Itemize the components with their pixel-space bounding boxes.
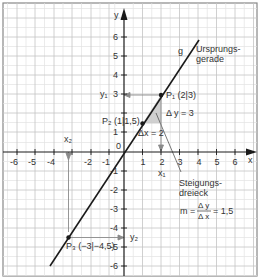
y-tick-label: 4 [113,70,118,80]
point-p2 [140,121,144,125]
slope-triangle-title-2: dreieck [179,188,209,198]
point-p1 [159,93,163,97]
slope-formula-denominator: Δ x [198,212,209,221]
x-tick-label: 6 [232,157,237,167]
line-caption-2: gerade [196,54,224,64]
x-tick-label: -1 [102,157,110,167]
point-p1-label: P₁ (2|3) [166,90,196,100]
coordinate-diagram: -6 -5 -4 -2 -1 1 2 3 4 5 6 6 5 4 3 1 -1 … [0,0,260,280]
x-tick-label: -5 [28,157,36,167]
x-axis-label: x [248,155,253,165]
x-tick-label: 1 [140,157,145,167]
point-p2-label: P₂ (1|1,5) [102,116,140,126]
y-tick-label: -6 [110,261,118,271]
slope-formula-numerator: Δ y [198,201,209,210]
x-tick-label: -4 [47,157,55,167]
x-tick-label: 2 [159,157,164,167]
point-p3 [66,235,70,239]
y-tick-label: 5 [113,51,118,61]
y-tick-label: 1 [113,127,118,137]
y-tick-label: 6 [113,32,118,42]
delta-y-label: Δ y = 3 [166,108,194,118]
line-caption-1: Ursprungs- [196,44,241,54]
y-axis-label: y [114,10,119,20]
y-tick-label: -3 [110,204,118,214]
y2-label: y₂ [130,232,139,242]
x2-label: x₂ [64,134,73,144]
slope-triangle-title-1: Steigungs- [179,178,222,188]
x-tick-label: -6 [10,157,18,167]
line-g-label: g [178,46,183,56]
slope-formula-m: m = [180,206,195,216]
x-tick-label: 5 [214,157,219,167]
x-tick-label: 4 [196,157,201,167]
y-tick-label: -1 [110,166,118,176]
x1-label: x₁ [158,168,166,178]
x-tick-label: -2 [84,157,92,167]
delta-x-label: Δx = 2 [138,128,164,138]
slope-formula-value: = 1,5 [213,206,233,216]
y-tick-label: 3 [113,89,118,99]
y-tick-label: -4 [110,223,118,233]
y1-label: y₁ [100,89,108,99]
x-tick-label: 3 [177,157,182,167]
y-tick-label: -2 [110,185,118,195]
point-p3-label: P₃ (−3|−4,5) [66,241,115,251]
origin-label: 0 [116,141,121,151]
